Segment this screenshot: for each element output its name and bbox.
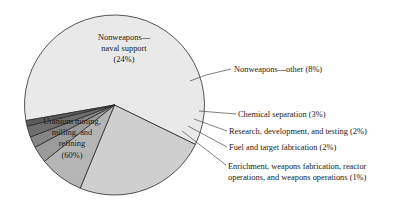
pie-chart-figure: Uranium mining,milling, andrefining(60%)… bbox=[0, 0, 417, 206]
slice-label-line: naval support bbox=[101, 44, 147, 53]
slice-label-fuel-target-fabrication: Fuel and target fabrication (2%) bbox=[229, 143, 336, 152]
slice-label-line: Fuel and target fabrication (2%) bbox=[229, 143, 336, 152]
slice-label-line: operations, and weapons operations (1%) bbox=[228, 173, 367, 182]
slice-label-chemical-separation: Chemical separation (3%) bbox=[238, 110, 326, 119]
slice-label-line: (24%) bbox=[114, 55, 135, 64]
slice-label-line: refining bbox=[59, 139, 86, 148]
slice-label-line: Nonweapons— bbox=[98, 33, 151, 42]
slice-label-research-development-testing: Research, development, and testing (2%) bbox=[229, 127, 367, 136]
slice-label-line: (60%) bbox=[62, 151, 83, 160]
slice-label-line: Chemical separation (3%) bbox=[238, 110, 326, 119]
slice-label-nonweapons-other: Nonweapons—other (8%) bbox=[234, 65, 322, 74]
slice-label-line: Enrichment, weapons fabrication, reactor bbox=[228, 162, 367, 171]
slice-label-line: Nonweapons—other (8%) bbox=[234, 65, 322, 74]
slice-label-line: Research, development, and testing (2%) bbox=[229, 127, 367, 136]
slice-label-line: milling, and bbox=[52, 128, 93, 137]
slice-label-enrichment-weapons-reactor: Enrichment, weapons fabrication, reactor… bbox=[228, 162, 367, 182]
slice-label-line: Uranium mining, bbox=[43, 117, 101, 126]
pie-chart-svg: Uranium mining,milling, andrefining(60%)… bbox=[0, 0, 417, 206]
